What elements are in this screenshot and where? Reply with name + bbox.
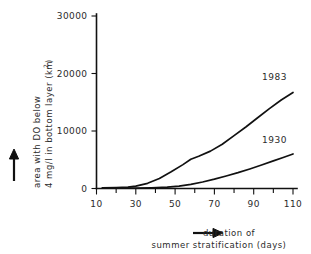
y-tick-label: 10000 — [57, 126, 88, 136]
y-tick-label: 30000 — [57, 11, 88, 21]
x-tick-label: 110 — [284, 199, 302, 209]
arrow-up-icon — [9, 149, 18, 181]
series-line-1930 — [102, 154, 293, 188]
x-tick-label: 70 — [208, 199, 220, 209]
x-tick-label: 90 — [248, 199, 260, 209]
line-chart: 0100002000030000 1030507090110 19831930 … — [0, 0, 311, 254]
series-label-1930: 1930 — [262, 135, 287, 145]
chart-page: 0100002000030000 1030507090110 19831930 … — [0, 0, 311, 254]
x-tick-label: 30 — [130, 199, 142, 209]
series-label-1983: 1983 — [262, 72, 287, 82]
y-tick-label: 0 — [81, 184, 87, 194]
x-axis-ticks — [97, 189, 294, 195]
y-axis-title-line1: area with DO below — [32, 96, 42, 188]
x-axis-title: duration of summer stratification (days) — [152, 228, 287, 250]
y-tick-label: 20000 — [57, 69, 88, 79]
x-tick-label: 50 — [169, 199, 181, 209]
x-axis-tick-labels: 1030507090110 — [90, 199, 302, 209]
y-axis-tick-labels: 0100002000030000 — [57, 11, 88, 194]
x-tick-label: 10 — [90, 199, 102, 209]
y-axis-title-superscript: 2 — [42, 64, 49, 68]
x-axis-title-line1: duration of — [203, 228, 256, 238]
x-axis-title-line2: summer stratification (days) — [152, 240, 287, 250]
y-axis-title-closeparen: ) — [44, 59, 54, 63]
y-axis-title-line2: 4 mg/l in bottom layer (km — [44, 61, 54, 188]
y-axis-title: area with DO below 4 mg/l in bottom laye… — [32, 59, 54, 188]
chart-series-labels: 19831930 — [262, 72, 287, 145]
